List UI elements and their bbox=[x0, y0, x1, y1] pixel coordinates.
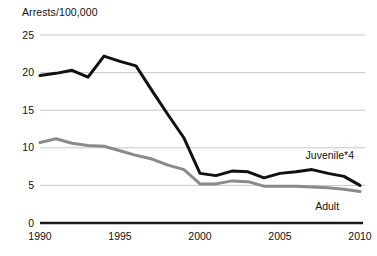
x-tick-2000: 2000 bbox=[178, 231, 222, 242]
y-tick-10: 10 bbox=[8, 142, 34, 153]
y-tick-5: 5 bbox=[8, 180, 34, 191]
series-label-juvenile: Juvenile*4 bbox=[306, 150, 354, 161]
x-tick-1990: 1990 bbox=[18, 231, 62, 242]
gridlines bbox=[40, 35, 365, 185]
y-tick-15: 15 bbox=[8, 105, 34, 116]
x-tick-2010: 2010 bbox=[338, 231, 377, 242]
x-tick-1995: 1995 bbox=[98, 231, 142, 242]
x-tick-2005: 2005 bbox=[258, 231, 302, 242]
arrests-line-chart: Arrests/100,000 0510152025 1990199520002… bbox=[0, 0, 377, 256]
y-tick-25: 25 bbox=[8, 30, 34, 41]
y-tick-20: 20 bbox=[8, 67, 34, 78]
series-line-juvenile bbox=[40, 56, 360, 185]
series-line-adult bbox=[40, 139, 360, 192]
series-label-adult: Adult bbox=[315, 201, 339, 212]
series-paths bbox=[40, 56, 360, 191]
plot-area bbox=[0, 0, 377, 256]
y-tick-0: 0 bbox=[8, 218, 34, 229]
